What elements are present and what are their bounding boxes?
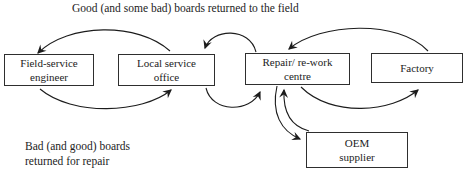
node-factory: Factory xyxy=(371,53,463,83)
node-label: office xyxy=(154,70,179,84)
node-label: Repair/ re-work xyxy=(263,55,333,69)
arrow-local-to-field-top xyxy=(38,30,170,53)
node-label: Field-service xyxy=(20,56,77,70)
node-local-service-office: Local service office xyxy=(118,54,215,86)
node-repair-rework-centre: Repair/ re-work centre xyxy=(245,53,350,85)
node-label: Factory xyxy=(400,61,434,75)
node-label: OEM xyxy=(345,136,369,150)
caption-good-boards-returned: Good (and some bad) boards returned to t… xyxy=(72,1,299,16)
node-label: centre xyxy=(284,69,311,83)
arrow-local-to-repair-bottom xyxy=(206,88,260,107)
node-field-service-engineer: Field-service engineer xyxy=(4,54,94,86)
arrow-factory-to-repair-top xyxy=(289,28,428,51)
flow-diagram: Good (and some bad) boards returned to t… xyxy=(0,0,470,176)
arrow-repair-to-factory-bottom xyxy=(301,87,418,108)
node-label: supplier xyxy=(339,150,374,164)
caption-line: Bad (and good) boards xyxy=(25,140,130,152)
arrow-oem-to-repair xyxy=(284,90,309,131)
arrow-field-to-local-bottom xyxy=(40,89,171,109)
node-oem-supplier: OEM supplier xyxy=(306,132,408,168)
caption-line: returned for repair xyxy=(25,155,109,167)
arrow-repair-to-oem xyxy=(275,86,300,139)
node-label: Local service xyxy=(137,56,196,70)
node-label: engineer xyxy=(30,70,68,84)
caption-bad-boards-returned: Bad (and good) boards returned for repai… xyxy=(25,139,170,169)
arrow-repair-to-local-top xyxy=(205,33,256,52)
